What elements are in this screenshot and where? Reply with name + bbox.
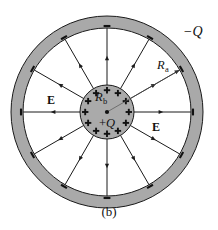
inner-charge-label: + Q <box>99 116 115 130</box>
inner-charge-sign: + <box>99 116 106 130</box>
outer-radius-subscript: a <box>165 64 169 74</box>
field-diagram-svg: −Q R b R a + Q E E <box>0 0 218 230</box>
inner-radius-subscript: b <box>103 96 107 106</box>
field-label-left: E <box>47 93 55 107</box>
field-label-right: E <box>152 120 160 134</box>
inner-radius-letter: R <box>94 90 103 104</box>
center-dot <box>105 110 109 114</box>
outer-radius-letter: R <box>156 58 165 72</box>
figure-caption: (b) <box>0 204 218 220</box>
inner-charge-letter: Q <box>106 116 115 130</box>
figure-container: −Q R b R a + Q E E (b) <box>0 0 218 230</box>
outer-charge-label: −Q <box>183 24 203 39</box>
